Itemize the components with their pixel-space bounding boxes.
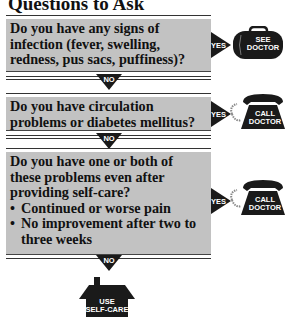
telephone-icon: CALL DOCTOR <box>229 92 287 132</box>
yes-arrow-2: YES <box>211 101 231 127</box>
yes-arrow-1: YES <box>211 32 231 58</box>
action-label: CALL DOCTOR <box>248 196 282 212</box>
no-label: NO <box>96 256 122 265</box>
list-item: Continued or worse pain <box>10 201 207 217</box>
no-label: NO <box>96 75 122 84</box>
action-label: CALL DOCTOR <box>248 110 282 126</box>
yes-arrow-3: YES <box>211 188 231 214</box>
question-text: Do you have circulation problems or diab… <box>10 98 195 130</box>
yes-label: YES <box>211 41 226 50</box>
question-box-3: Do you have one or both of these problem… <box>6 152 211 255</box>
yes-label: YES <box>211 110 226 119</box>
divider <box>6 148 211 149</box>
list-item: No improvement after two to three weeks <box>10 216 207 247</box>
question-text: Do you have one or both of these problem… <box>10 153 173 200</box>
yes-label: YES <box>211 197 226 206</box>
divider <box>6 15 211 16</box>
no-arrow-1: NO <box>96 74 122 90</box>
no-arrow-3: NO <box>96 255 122 271</box>
divider <box>6 93 211 94</box>
telephone-icon: CALL DOCTOR <box>229 178 287 218</box>
no-arrow-2: NO <box>96 133 122 149</box>
action-label: USE SELF-CARE <box>84 298 130 314</box>
house-icon: USE SELF-CARE <box>79 277 135 317</box>
no-label: NO <box>96 134 122 143</box>
question-text: Do you have any signs of infection (feve… <box>10 20 185 67</box>
action-label: SEE DOCTOR <box>246 36 280 52</box>
question-box-2: Do you have circulation problems or diab… <box>6 97 211 131</box>
question-box-1: Do you have any signs of infection (feve… <box>6 19 211 72</box>
page-title: Questions to Ask <box>8 0 144 15</box>
doctor-bag-icon: SEE DOCTOR <box>232 26 284 60</box>
symptom-list: Continued or worse pain No improvement a… <box>10 201 207 248</box>
